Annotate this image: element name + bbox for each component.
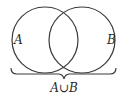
- set-b-label: B: [106, 33, 116, 47]
- set-b-circle: [49, 7, 115, 73]
- union-label: A∪B: [49, 81, 78, 95]
- venn-diagram: A B A∪B: [0, 0, 127, 98]
- union-brace: [11, 68, 116, 79]
- set-a-label: A: [13, 33, 23, 47]
